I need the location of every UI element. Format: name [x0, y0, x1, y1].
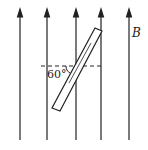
field-label: B — [132, 26, 141, 40]
rod-inner-line — [69, 43, 91, 83]
angle-arc — [66, 66, 70, 73]
field-line — [127, 9, 132, 140]
diagram: B 60° — [0, 0, 148, 150]
field-line — [99, 9, 104, 140]
angle-label: 60° — [47, 68, 67, 81]
field-diagram — [0, 0, 148, 150]
field-line — [18, 9, 23, 140]
